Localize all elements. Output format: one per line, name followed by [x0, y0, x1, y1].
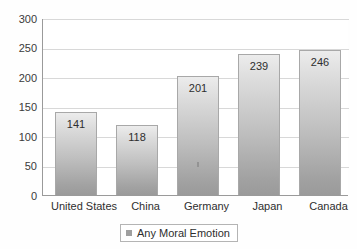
y-tick-label: 250: [3, 43, 37, 54]
gridline: [43, 19, 349, 20]
y-tick-label: 150: [3, 102, 37, 113]
legend: Any Moral Emotion: [120, 224, 238, 242]
bar-artifact-mark: [197, 162, 199, 167]
y-tick-label: 0: [3, 191, 37, 202]
plot-area: 141 118 201 239 246: [42, 19, 348, 196]
y-tick-label: 100: [3, 132, 37, 143]
bar-chart: 300 250 200 150 100 50 0 141 118 201 239…: [0, 0, 357, 249]
bar-canada[interactable]: 246: [299, 50, 341, 195]
bar-value-label: 201: [178, 82, 218, 94]
y-tick-label: 200: [3, 73, 37, 84]
bar-value-label: 141: [56, 118, 96, 130]
bar-china[interactable]: 118: [116, 125, 158, 195]
x-tick-label-canada: Canada: [279, 200, 357, 213]
bar-value-label: 246: [300, 56, 340, 68]
legend-label: Any Moral Emotion: [137, 227, 230, 239]
bar-united-states[interactable]: 141: [55, 112, 97, 195]
legend-swatch-icon: [126, 230, 132, 236]
bar-value-label: 118: [117, 131, 157, 143]
bar-value-label: 239: [239, 60, 279, 72]
bar-japan[interactable]: 239: [238, 54, 280, 195]
y-tick-label: 300: [3, 14, 37, 25]
y-tick-label: 50: [3, 161, 37, 172]
bar-germany[interactable]: 201: [177, 76, 219, 195]
